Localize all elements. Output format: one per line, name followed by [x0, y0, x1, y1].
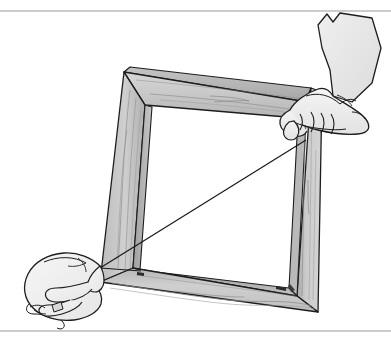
frame-diagonal-illustration: [0, 0, 391, 348]
illustration-canvas: Two hands measuring a frame diagonal wit…: [0, 0, 391, 348]
hand-left: [25, 253, 104, 321]
